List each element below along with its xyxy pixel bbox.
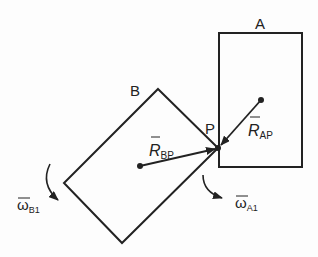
r-bp-label: RBP xyxy=(149,142,174,161)
body-a-label: A xyxy=(255,15,265,32)
omega-b1-label: ωB1 xyxy=(17,196,40,215)
omega-a1-label: ωA1 xyxy=(235,194,258,213)
contact-point-p xyxy=(215,145,221,151)
r-ap-label: RAP xyxy=(248,122,273,141)
point-p-label: P xyxy=(205,120,215,137)
omega-a1-rotation-arrow xyxy=(203,175,222,198)
omega-b1-rotation-arrow xyxy=(46,164,58,200)
body-b-label: B xyxy=(130,82,140,99)
rigid-body-contact-diagram: A B P RAP RBP ωB1 ωA1 xyxy=(0,0,318,257)
